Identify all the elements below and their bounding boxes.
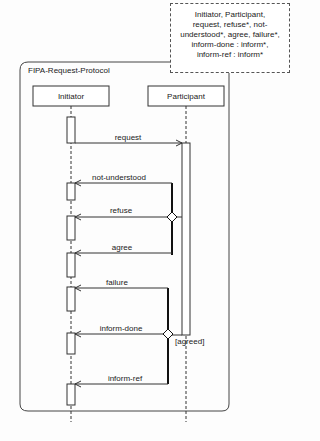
initiator-activation (67, 216, 75, 240)
lifeline-initiator-label: Initiator (58, 92, 85, 101)
note-line: understood*, agree, failure*, (171, 30, 289, 40)
message-request: request (115, 133, 142, 142)
protocol-note: Initiator, Participant, request, refuse*… (170, 3, 290, 73)
initiator-activation (67, 253, 75, 277)
message-agree: agree (112, 243, 133, 252)
message-failure: failure (106, 278, 128, 287)
initiator-activation (67, 287, 75, 311)
choice-diamond-icon (163, 329, 173, 339)
message-not-understood: not-understood (92, 173, 146, 182)
lifeline-participant-label: Participant (167, 92, 206, 101)
initiator-activation (67, 333, 75, 354)
note-line: Initiator, Participant, (171, 10, 289, 20)
note-line: inform-done : inform*, (171, 40, 289, 50)
initiator-activation (67, 384, 75, 405)
initiator-activation (67, 117, 75, 143)
frame-title: FIPA-Request-Protocol (28, 66, 110, 75)
guard-agreed: [agreed] (175, 337, 204, 346)
protocol-frame (20, 60, 230, 411)
note-line: inform-ref : inform* (171, 50, 289, 60)
message-inform-done: inform-done (100, 324, 143, 333)
participant-activation (182, 143, 190, 335)
initiator-activation (67, 183, 75, 200)
message-inform-ref: inform-ref (108, 374, 143, 383)
choice-diamond-icon (167, 212, 177, 222)
note-line: request, refuse*, not- (171, 20, 289, 30)
message-refuse: refuse (110, 206, 133, 215)
